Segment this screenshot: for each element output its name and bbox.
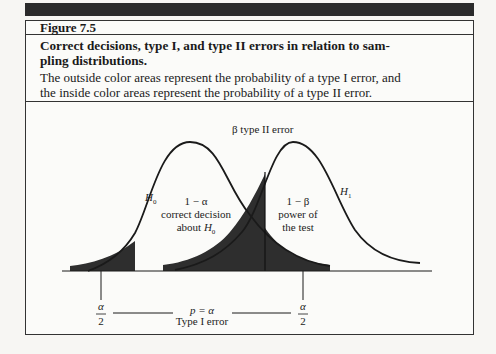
- beta-label: β type II error: [232, 123, 294, 135]
- the-test-label: the test: [282, 221, 313, 233]
- alpha-half-right-den: 2: [300, 315, 306, 327]
- power-of-label: power of: [278, 208, 318, 220]
- type1-error-label: Type I error: [176, 315, 229, 327]
- sampling-distribution-diagram: β type II error H0 H1 1 − α correct deci…: [0, 0, 496, 354]
- alpha-half-right-num: α: [300, 300, 306, 312]
- about-h0-label: about H0: [177, 221, 216, 236]
- alpha-half-left-den: 2: [98, 315, 104, 327]
- one-minus-alpha-label: 1 − α: [185, 195, 208, 207]
- correct-decision-label: correct decision: [161, 208, 231, 220]
- one-minus-beta-label: 1 − β: [287, 195, 310, 207]
- alpha-half-left-num: α: [98, 300, 104, 312]
- h1-label: H1: [339, 185, 352, 200]
